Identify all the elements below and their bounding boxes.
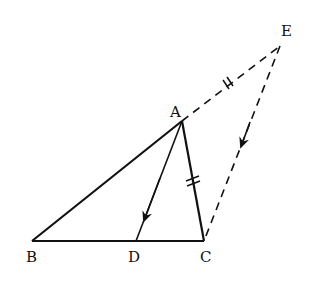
label-a: A: [169, 103, 181, 121]
segment-ac: [182, 121, 204, 241]
arrow-ec-icon: [242, 122, 250, 144]
arrow-ad-icon: [145, 178, 160, 218]
label-b: B: [26, 248, 37, 266]
diagram-svg: E A B D C: [0, 0, 318, 297]
tick-marks-ae-icon: [223, 77, 233, 89]
label-d: D: [128, 248, 140, 266]
label-c: C: [200, 248, 211, 266]
geometry-diagram: E A B D C: [0, 0, 318, 297]
label-e: E: [281, 22, 292, 40]
